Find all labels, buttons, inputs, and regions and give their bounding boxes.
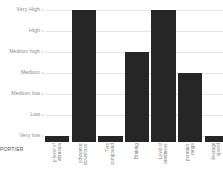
- y-axis-tick-label: Very High: [17, 7, 40, 12]
- bar[interactable]: [205, 136, 223, 142]
- y-axis-tick-label: High: [29, 28, 40, 33]
- x-axis-tick-label-line: perature: [185, 143, 190, 177]
- y-axis: Very HighHighMedium highMediumMedium low…: [0, 0, 44, 142]
- x-axis-tick-label-line: speed: [217, 143, 222, 177]
- bar-slot: [151, 0, 175, 142]
- x-axis-tick: Level ofwindiness: [151, 143, 175, 178]
- bar-slot: [72, 0, 96, 142]
- x-axis-tick-label-line: p level of: [52, 143, 57, 177]
- x-axis-tick-label-line: range: [190, 143, 195, 177]
- x-axis: p level ofabrasionodynamicdownforceTyrec…: [45, 143, 223, 178]
- y-axis-tick-label: Medium: [21, 70, 40, 75]
- x-axis-tick-label: Averagespeed: [211, 143, 222, 178]
- x-axis-tick: peraturerange: [178, 143, 202, 178]
- bar-slot: [178, 0, 202, 142]
- x-axis-tick-label: Braking: [134, 143, 139, 178]
- x-axis-tick-label-line: compound: [110, 143, 115, 177]
- y-axis-tick-label: Low: [30, 112, 40, 117]
- y-axis-tick-mark: [41, 10, 44, 11]
- x-axis-tick-label: peraturerange: [185, 143, 196, 178]
- bar[interactable]: [98, 136, 122, 142]
- bar[interactable]: [125, 52, 149, 142]
- y-axis-tick-label: Medium high: [9, 49, 40, 54]
- bar-slot: [205, 0, 223, 142]
- x-axis-tick-label-line: Braking: [134, 143, 139, 177]
- y-axis-tick-mark: [41, 31, 44, 32]
- x-axis-tick-label-line: abrasion: [57, 143, 62, 177]
- x-axis-tick-label: odynamicdownforce: [78, 143, 89, 178]
- y-axis-tick-label: Medium low: [11, 91, 40, 96]
- y-axis-tick-mark: [41, 73, 44, 74]
- bar[interactable]: [45, 136, 69, 142]
- x-axis-tick-label: Level ofwindiness: [158, 143, 169, 178]
- bar-slot: [125, 0, 149, 142]
- bar-chart: Very HighHighMedium highMediumMedium low…: [0, 0, 223, 178]
- y-axis-tick-label: Very low: [20, 133, 40, 138]
- y-axis-tick-mark: [41, 136, 44, 137]
- x-axis-tick: Averagespeed: [205, 143, 223, 178]
- x-axis-tick: p level ofabrasion: [45, 143, 69, 178]
- x-axis-tick: Tyrecompound: [98, 143, 122, 178]
- x-axis-tick-label-line: windiness: [164, 143, 169, 177]
- bar[interactable]: [178, 73, 202, 142]
- x-axis-tick-label: Tyrecompound: [105, 143, 116, 178]
- x-axis-tick: odynamicdownforce: [72, 143, 96, 178]
- x-axis-tick-label-line: downforce: [84, 143, 89, 177]
- corner-caption: PORTIER: [0, 146, 44, 152]
- x-axis-tick-label: p level ofabrasion: [52, 143, 63, 178]
- bar-slot: [45, 0, 69, 142]
- y-axis-tick-mark: [41, 94, 44, 95]
- y-axis-tick-mark: [41, 52, 44, 53]
- x-axis-tick: Braking: [125, 143, 149, 178]
- bar-slot: [98, 0, 122, 142]
- plot-area: [45, 0, 223, 142]
- bar[interactable]: [72, 10, 96, 142]
- y-axis-tick-mark: [41, 115, 44, 116]
- bar-series: [45, 0, 223, 142]
- bar[interactable]: [151, 10, 175, 142]
